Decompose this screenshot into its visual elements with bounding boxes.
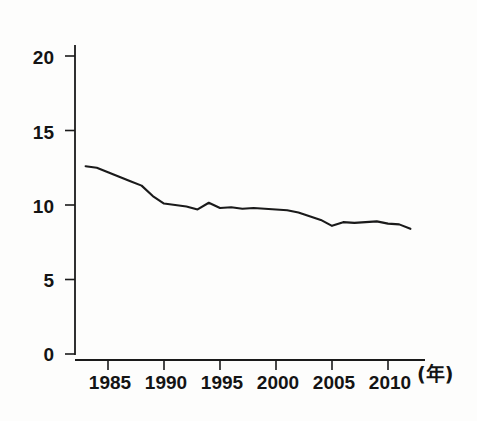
x-tick-label-1995: 1995 (201, 373, 243, 392)
x-tick-label-2000: 2000 (257, 373, 299, 392)
x-tick-label-1990: 1990 (145, 373, 187, 392)
x-tick-label-2005: 2005 (313, 373, 355, 392)
data-line-rate (86, 166, 411, 229)
chart-container: 20 15 10 5 0 1985 1990 1995 2000 2005 20… (0, 0, 477, 421)
y-tick-label-0: 0 (14, 345, 54, 364)
y-tick-label-15: 15 (14, 123, 54, 142)
data-series-layer (86, 166, 411, 229)
line-chart-plot (0, 0, 477, 421)
x-axis-unit-label: (年) (417, 365, 453, 384)
y-tick-label-10: 10 (14, 197, 54, 216)
y-tick-label-20: 20 (14, 48, 54, 67)
x-tick-label-1985: 1985 (89, 373, 131, 392)
x-tick-label-2010: 2010 (369, 373, 411, 392)
y-tick-label-5: 5 (14, 271, 54, 290)
